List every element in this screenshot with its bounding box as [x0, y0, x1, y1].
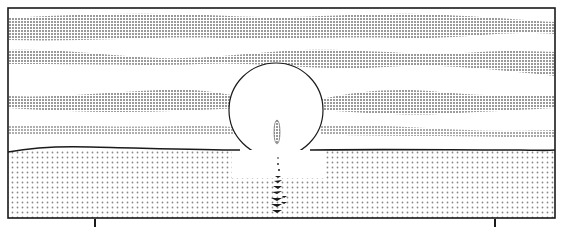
crop-marks: [94, 219, 496, 227]
cloud-band-4: [8, 125, 240, 134]
crop-mark-right: [494, 219, 496, 227]
manga-panel: [0, 0, 563, 227]
sun-reflection-streak: [274, 120, 280, 144]
crop-mark-left: [94, 219, 96, 227]
